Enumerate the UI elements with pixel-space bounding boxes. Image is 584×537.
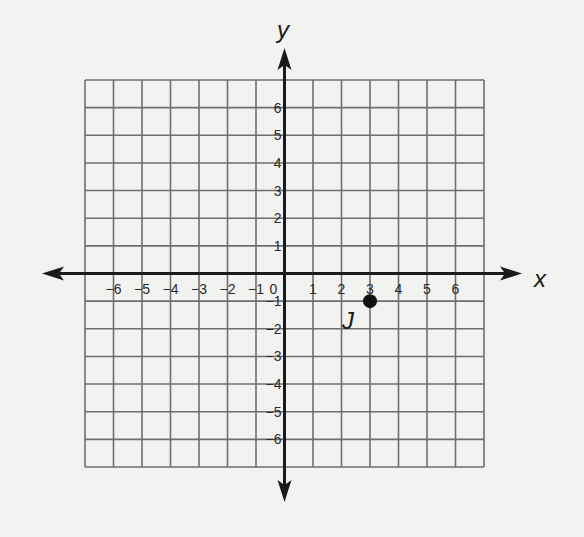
x-tick-label: −6 bbox=[106, 281, 122, 297]
x-tick-label: 6 bbox=[452, 281, 460, 297]
y-tick-label: 5 bbox=[274, 127, 282, 143]
y-tick-label: 3 bbox=[274, 183, 282, 199]
y-tick-label: 2 bbox=[274, 210, 282, 226]
x-tick-label: −4 bbox=[163, 281, 179, 297]
y-axis-label: y bbox=[275, 16, 291, 43]
y-tick-label: 1 bbox=[274, 238, 282, 254]
y-tick-label: 4 bbox=[274, 155, 282, 171]
x-tick-label: 3 bbox=[366, 281, 374, 297]
y-tick-label: −6 bbox=[266, 431, 282, 447]
x-tick-label: 2 bbox=[338, 281, 346, 297]
x-axis-label: x bbox=[533, 265, 547, 292]
y-tick-label: −4 bbox=[266, 376, 282, 392]
y-tick-label: −5 bbox=[266, 404, 282, 420]
x-tick-label: 1 bbox=[309, 281, 317, 297]
x-tick-label: −2 bbox=[220, 281, 236, 297]
x-tick-label: −5 bbox=[134, 281, 150, 297]
coordinate-plane: −6−5−4−3−2−10123456654321−1−2−3−4−5−6 J … bbox=[0, 0, 584, 537]
x-tick-label: −3 bbox=[191, 281, 207, 297]
x-tick-label: 4 bbox=[395, 281, 403, 297]
point-marker bbox=[363, 294, 377, 308]
point-label: J bbox=[341, 307, 355, 334]
y-tick-label: −1 bbox=[266, 293, 282, 309]
y-tick-label: −3 bbox=[266, 348, 282, 364]
y-tick-label: −2 bbox=[266, 321, 282, 337]
x-tick-label: −1 bbox=[248, 281, 264, 297]
y-tick-label: 6 bbox=[274, 100, 282, 116]
x-tick-label: 5 bbox=[423, 281, 431, 297]
